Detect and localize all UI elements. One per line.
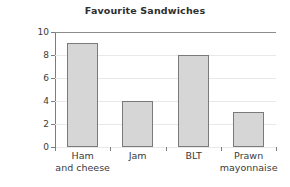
y-tick-label-4: 4	[43, 96, 49, 106]
x-axis-label-line2: mayonnaise	[209, 162, 288, 174]
y-tick-label-8: 8	[43, 50, 49, 60]
gridline-10	[55, 32, 276, 33]
bar-1	[122, 101, 153, 147]
y-axis-line	[55, 32, 56, 147]
y-tick-mark-4	[51, 101, 55, 102]
x-axis-label-line2: and cheese	[43, 162, 122, 174]
x-axis-label-line1: Prawn	[209, 150, 288, 162]
y-tick-mark-10	[51, 32, 55, 33]
plot-area: 1086420	[55, 32, 276, 147]
x-axis-label-3: Prawnmayonnaise	[209, 150, 288, 174]
bar-0	[67, 43, 98, 147]
y-tick-mark-8	[51, 55, 55, 56]
bar-2	[178, 55, 209, 147]
y-tick-mark-2	[51, 124, 55, 125]
y-tick-mark-6	[51, 78, 55, 79]
chart-title: Favourite Sandwiches	[0, 5, 290, 16]
bar-chart: Favourite Sandwiches Number of children …	[0, 0, 290, 187]
x-axis-labels: Hamand cheeseJamBLTPrawnmayonnaise	[55, 150, 276, 184]
y-tick-label-2: 2	[43, 119, 49, 129]
bar-3	[233, 112, 264, 147]
y-tick-label-10: 10	[38, 27, 49, 37]
y-tick-label-6: 6	[43, 73, 49, 83]
